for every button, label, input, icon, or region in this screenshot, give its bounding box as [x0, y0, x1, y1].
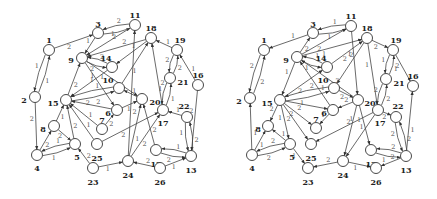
node-label-2: 2: [236, 96, 242, 106]
edge-weight-label: 2: [271, 137, 275, 145]
edge-weight-label: 1: [90, 72, 94, 80]
node-label-11: 11: [129, 10, 140, 20]
node-10: [329, 83, 340, 94]
edge-weight-label: 1: [411, 126, 415, 134]
node-10: [114, 83, 125, 94]
node-21: [381, 74, 392, 85]
node-22: [391, 112, 402, 123]
node-label-9: 9: [68, 55, 74, 65]
edge-15-to-9: [68, 63, 80, 95]
edge-2-to-1: [254, 56, 265, 93]
edge-weight-label: 1: [127, 105, 131, 113]
node-label-18: 18: [361, 23, 373, 33]
edge-weight-label: 2: [121, 131, 125, 139]
edge-weight-label: 2: [395, 62, 399, 70]
edge-weight-label: 2: [30, 115, 34, 123]
node-label-22: 22: [392, 101, 403, 111]
node-26: [155, 163, 166, 174]
edge-weight-label: 2: [326, 156, 330, 164]
node-11: [130, 20, 141, 31]
edge-weight-label: 2: [297, 104, 301, 112]
node-label-2: 2: [21, 95, 27, 105]
edge-weight-label: 1: [359, 123, 363, 131]
edge-4-to-2: [250, 103, 252, 149]
node-label-19: 19: [174, 35, 186, 45]
edge-weight-label: 2: [165, 56, 169, 64]
edge-weight-label: 2: [344, 96, 348, 104]
edge-17-to-18: [152, 43, 162, 104]
edge-weight-label: 2: [346, 118, 350, 126]
edge-weight-label: 2: [178, 64, 182, 72]
edge-weight-label: 1: [285, 68, 289, 76]
edge-weight-label: 1: [176, 143, 180, 151]
edge-13-to-12: [162, 149, 186, 153]
node-1: [44, 45, 55, 56]
edge-weight-label: 2: [260, 78, 264, 86]
node-label-14: 14: [315, 53, 327, 63]
node-label-11: 11: [345, 11, 356, 21]
edge-13-to-22: [190, 122, 193, 150]
edge-weight-label: 2: [250, 62, 254, 70]
edge-18-to-17: [368, 43, 377, 104]
edge-weight-label: 1: [158, 85, 162, 93]
edge-weight-label: 1: [56, 137, 60, 145]
edge-3-to-1: [269, 35, 308, 48]
node-label-21: 21: [393, 78, 404, 88]
edge-weight-label: 1: [132, 87, 136, 95]
edge-2-to-1: [39, 56, 50, 92]
node-21: [165, 73, 176, 84]
node-label-13: 13: [185, 165, 197, 175]
edge-weight-label: 2: [407, 135, 411, 143]
edge-weight-label: 2: [87, 152, 91, 160]
edge-weight-label: 2: [73, 122, 77, 130]
node-3: [93, 28, 104, 39]
edge-weight-label: 2: [142, 140, 146, 148]
node-17: [158, 105, 169, 116]
node-2: [30, 92, 41, 103]
node-label-1: 1: [46, 35, 52, 45]
edge-13-to-12: [377, 149, 401, 153]
node-9: [292, 52, 303, 63]
edge-weight-label: 2: [152, 126, 156, 134]
edge-weight-label: 1: [111, 30, 115, 38]
node-15: [61, 95, 72, 106]
node-label-3: 3: [310, 19, 316, 29]
edge-weight-label: 2: [343, 55, 347, 63]
node-4: [32, 150, 43, 161]
node-5: [70, 139, 81, 150]
edge-weight-label: 2: [374, 86, 378, 94]
node-label-8: 8: [40, 124, 46, 134]
node-25: [306, 139, 317, 150]
right-graph: 1221112212211211112112212222122122212221…: [236, 11, 419, 187]
node-label-6: 6: [105, 108, 111, 118]
node-7: [97, 124, 108, 135]
edge-weight-label: 2: [74, 81, 78, 89]
edge-19-to-21: [169, 55, 173, 72]
node-label-7: 7: [99, 115, 105, 125]
node-label-3: 3: [95, 19, 101, 29]
node-label-10: 10: [317, 75, 329, 85]
node-label-24: 24: [337, 170, 349, 180]
node-label-21: 21: [177, 77, 188, 87]
edge-weight-label: 2: [132, 108, 136, 116]
node-7: [311, 123, 322, 134]
node-11: [346, 21, 357, 32]
node-14: [322, 62, 333, 73]
node-label-22: 22: [178, 101, 189, 111]
node-label-13: 13: [400, 165, 412, 175]
edge-weight-label: 2: [195, 136, 199, 144]
left-graph: 2112221121122122221211112121211211122121…: [21, 10, 204, 187]
edge-weight-label: 1: [60, 113, 64, 121]
node-20: [137, 94, 148, 105]
edge-12-to-13: [376, 153, 400, 157]
node-label-15: 15: [47, 98, 58, 108]
node-label-25: 25: [91, 153, 102, 163]
node-26: [371, 163, 382, 174]
edge-21-to-17: [377, 84, 382, 104]
edge-weight-label: 1: [333, 18, 337, 26]
node-label-7: 7: [313, 114, 319, 124]
node-15: [275, 95, 286, 106]
node-9: [77, 53, 88, 64]
node-label-4: 4: [249, 163, 255, 173]
edge-weight-label: 1: [171, 95, 175, 103]
